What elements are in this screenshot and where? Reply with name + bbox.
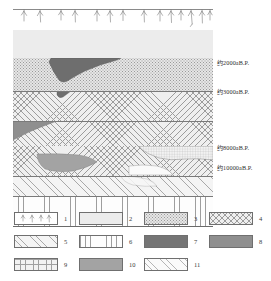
layer-unit-2-plain bbox=[13, 30, 213, 58]
cross-section-diagram bbox=[13, 30, 213, 193]
layer-unit-3-stipple bbox=[13, 58, 213, 91]
legend-row-3: 9 10 11 bbox=[14, 258, 259, 276]
horizon-label-8000: 约8000aB.P. bbox=[217, 143, 249, 152]
legend-number-11: 11 bbox=[194, 261, 200, 268]
layer-unit-4-crosshatch-middle bbox=[13, 121, 213, 146]
legend-row-2: 5 6 7 8 bbox=[14, 235, 259, 253]
left-wedge-body bbox=[13, 121, 213, 146]
vegetation-surface bbox=[13, 8, 213, 30]
layer-unit-4-crosshatch-upper bbox=[13, 91, 213, 121]
horizon-label-10000: 约10000aB.P. bbox=[217, 163, 252, 172]
horizon-line-8000 bbox=[13, 176, 213, 177]
legend-swatch-crosshatch bbox=[209, 212, 253, 225]
legend-number-9: 9 bbox=[64, 261, 67, 268]
legend-swatch-vegetation bbox=[14, 212, 58, 225]
legend-number-6: 6 bbox=[129, 238, 132, 245]
hatch-lens-upper bbox=[13, 176, 213, 196]
dark-lens-tail bbox=[13, 91, 213, 121]
legend-swatch-solid-medium bbox=[209, 235, 253, 248]
layer-unit-5-diagonal-hatch bbox=[13, 176, 213, 196]
legend-swatch-grid bbox=[14, 258, 58, 271]
legend-swatch-plain bbox=[79, 212, 123, 225]
legend-swatch-vertical-lines bbox=[79, 235, 123, 248]
legend-number-8: 8 bbox=[259, 238, 262, 245]
legend-swatch-solid-gray bbox=[79, 258, 123, 271]
layer-unit-4-crosshatch-lower bbox=[13, 146, 213, 176]
legend-swatch-diagonal-hatch bbox=[14, 235, 58, 248]
horizon-label-3000: 约3000aB.P. bbox=[217, 87, 249, 96]
legend-swatch-solid-dark bbox=[144, 235, 188, 248]
legend-number-2: 2 bbox=[129, 215, 132, 222]
horizon-line-2000 bbox=[13, 91, 213, 92]
horizon-line-3000 bbox=[13, 121, 213, 122]
legend-number-10: 10 bbox=[129, 261, 136, 268]
legend-number-7: 7 bbox=[194, 238, 197, 245]
dark-lens-body bbox=[13, 58, 213, 91]
vegetation-symbols bbox=[13, 8, 213, 30]
legend-swatch-light-hatch bbox=[144, 258, 188, 271]
legend-row-1: 1 2 3 4 bbox=[14, 212, 259, 230]
legend-number-4: 4 bbox=[259, 215, 262, 222]
vegetation-icon bbox=[15, 213, 58, 225]
horizon-label-2000: 约2000aB.P. bbox=[217, 58, 249, 67]
legend-number-3: 3 bbox=[194, 215, 197, 222]
legend-number-5: 5 bbox=[64, 238, 67, 245]
legend: 1 2 3 4 5 6 7 8 bbox=[14, 212, 259, 278]
grid-lens-right bbox=[13, 146, 213, 176]
horizon-line-10000 bbox=[13, 196, 213, 197]
legend-number-1: 1 bbox=[64, 215, 67, 222]
legend-swatch-stipple bbox=[144, 212, 188, 225]
